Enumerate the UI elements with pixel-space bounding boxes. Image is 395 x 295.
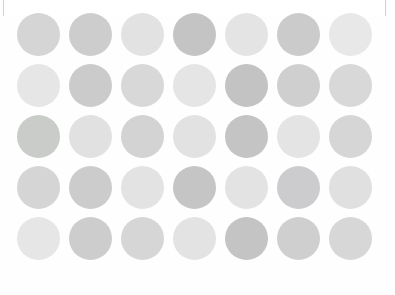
swatch-dot[interactable]	[17, 217, 60, 260]
swatch-dot[interactable]	[69, 13, 112, 56]
swatch-dot[interactable]	[69, 166, 112, 209]
swatch-dot[interactable]	[225, 64, 268, 107]
swatch-dot[interactable]	[17, 13, 60, 56]
swatch-dot[interactable]	[121, 13, 164, 56]
swatch-dot[interactable]	[69, 64, 112, 107]
swatch-grid	[17, 13, 385, 285]
swatch-dot[interactable]	[173, 166, 216, 209]
swatch-dot[interactable]	[173, 64, 216, 107]
swatch-dot[interactable]	[277, 13, 320, 56]
swatch-dot[interactable]	[121, 64, 164, 107]
swatch-dot[interactable]	[121, 217, 164, 260]
swatch-dot[interactable]	[173, 13, 216, 56]
swatch-dot[interactable]	[329, 115, 372, 158]
app-root	[0, 0, 395, 295]
swatch-dot[interactable]	[225, 115, 268, 158]
swatch-dot[interactable]	[329, 217, 372, 260]
swatch-dot[interactable]	[277, 115, 320, 158]
swatch-dot[interactable]	[329, 13, 372, 56]
swatch-dot[interactable]	[277, 217, 320, 260]
swatch-dot[interactable]	[17, 115, 60, 158]
swatch-dot[interactable]	[17, 166, 60, 209]
swatch-dot[interactable]	[225, 217, 268, 260]
swatch-dot[interactable]	[277, 166, 320, 209]
swatch-dot[interactable]	[173, 217, 216, 260]
swatch-dot[interactable]	[225, 13, 268, 56]
swatch-dot[interactable]	[17, 64, 60, 107]
swatch-dot[interactable]	[277, 64, 320, 107]
swatch-dot[interactable]	[173, 115, 216, 158]
swatch-dot[interactable]	[69, 217, 112, 260]
swatch-dot[interactable]	[225, 166, 268, 209]
swatch-dot[interactable]	[69, 115, 112, 158]
swatch-dot[interactable]	[329, 64, 372, 107]
swatch-dot[interactable]	[121, 166, 164, 209]
swatch-dot[interactable]	[121, 115, 164, 158]
swatch-dot[interactable]	[329, 166, 372, 209]
